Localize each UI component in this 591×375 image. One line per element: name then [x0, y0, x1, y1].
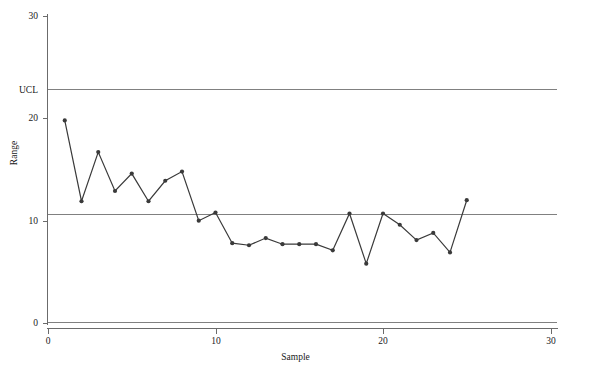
data-point	[381, 211, 385, 215]
data-point	[197, 219, 201, 223]
data-point	[347, 211, 351, 215]
data-point	[448, 250, 452, 254]
series-markers	[63, 118, 469, 265]
data-point	[364, 262, 368, 266]
data-point	[79, 199, 83, 203]
series-line	[65, 120, 467, 263]
data-point	[314, 242, 318, 246]
data-point	[63, 118, 67, 122]
data-series	[0, 0, 591, 375]
data-point	[163, 179, 167, 183]
data-point	[230, 241, 234, 245]
data-point	[331, 248, 335, 252]
data-point	[398, 223, 402, 227]
data-point	[431, 231, 435, 235]
data-point	[414, 238, 418, 242]
data-point	[213, 210, 217, 214]
data-point	[113, 189, 117, 193]
data-point	[130, 172, 134, 176]
data-point	[264, 236, 268, 240]
data-point	[297, 242, 301, 246]
data-point	[180, 169, 184, 173]
range-control-chart: 30 20 10 0 0 10 20 30 UCL Range Sample	[0, 0, 591, 375]
data-point	[247, 243, 251, 247]
data-point	[96, 150, 100, 154]
data-point	[280, 242, 284, 246]
data-point	[146, 199, 150, 203]
data-point	[465, 198, 469, 202]
